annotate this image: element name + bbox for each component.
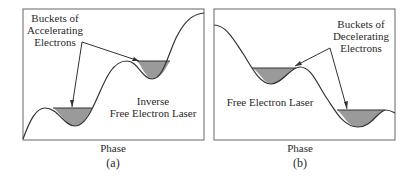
- panel-b-annotation-line-2: Decelerating: [328, 30, 394, 42]
- panel-a-arrowhead-1: [70, 100, 74, 107]
- panel-b-arrowhead-1: [295, 61, 302, 66]
- panel-b-mode-line-1: Free Electron Laser: [220, 96, 320, 108]
- panel-a-mode-label: Inverse Free Electron Laser: [106, 95, 200, 119]
- panel-a-mode-line-1: Inverse: [106, 95, 200, 107]
- panel-a-annotation-line-2: Accelerating: [26, 24, 84, 36]
- panel-a-annotation: Buckets of Accelerating Electrons: [26, 12, 84, 48]
- panel-b-annotation: Buckets of Decelerating Electrons: [328, 18, 394, 54]
- panel-a-xlabel: Phase: [83, 142, 143, 154]
- panel-a-arrowhead-2: [132, 57, 139, 61]
- panel-b-bucket-1: [252, 68, 296, 84]
- panel-a-mode-line-2: Free Electron Laser: [106, 107, 200, 119]
- panel-b-bucket-2: [337, 110, 385, 127]
- panel-b-mode-label: Free Electron Laser: [220, 96, 320, 108]
- panel-b-xlabel: Phase: [270, 142, 330, 154]
- panel-b-annotation-line-3: Electrons: [328, 42, 394, 54]
- panel-b-arrowhead-2: [344, 101, 348, 109]
- panel-a-caption: (a): [93, 156, 133, 171]
- panel-a-bucket-1: [53, 108, 92, 126]
- panel-b-caption: (b): [280, 156, 320, 171]
- panel-a-annotation-line-3: Electrons: [26, 36, 84, 48]
- panel-a-annotation-line-1: Buckets of: [26, 12, 84, 24]
- panel-b-annotation-line-1: Buckets of: [328, 18, 394, 30]
